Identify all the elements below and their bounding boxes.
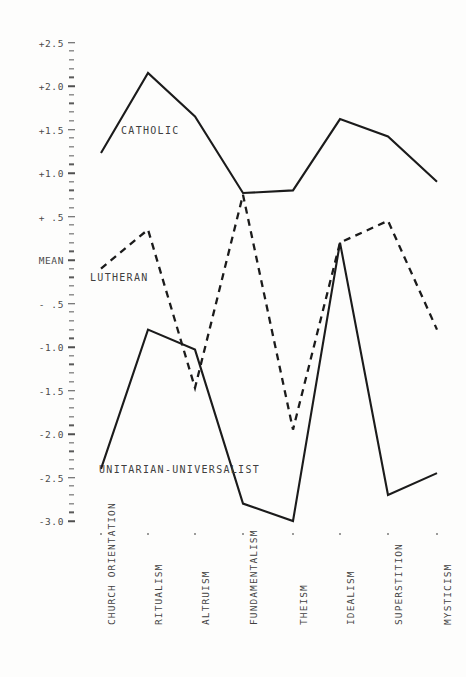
y-minor-tick xyxy=(69,407,74,408)
y-tick-mark xyxy=(68,129,75,131)
series-label-lutheran: LUTHERAN xyxy=(90,272,149,283)
y-minor-tick xyxy=(69,338,74,339)
y-minor-tick xyxy=(69,503,74,504)
y-minor-tick xyxy=(69,442,74,443)
y-minor-tick xyxy=(69,242,74,243)
y-minor-tick xyxy=(69,494,74,495)
y-tick-label: +2.0 xyxy=(8,81,64,92)
y-tick-mark xyxy=(68,433,75,435)
y-minor-tick xyxy=(69,312,74,313)
series-line-lutheran xyxy=(101,195,437,430)
y-tick-mark xyxy=(68,172,75,174)
x-tick-dot xyxy=(387,533,389,535)
y-minor-tick xyxy=(69,77,74,78)
y-minor-tick xyxy=(69,155,74,156)
y-minor-tick xyxy=(69,207,74,208)
chart-canvas: +2.5+2.0+1.5+1.0+ .5MEAN- .5-1.0-1.5-2.0… xyxy=(0,0,466,677)
y-minor-tick xyxy=(69,190,74,191)
y-tick-label: -2.0 xyxy=(8,429,64,440)
y-minor-tick xyxy=(69,138,74,139)
y-tick-mark xyxy=(68,42,75,44)
y-minor-tick xyxy=(69,372,74,373)
x-tick-dot xyxy=(194,533,196,535)
y-tick-label: - .5 xyxy=(8,298,64,309)
y-tick-label: -2.5 xyxy=(8,472,64,483)
y-minor-tick xyxy=(69,225,74,226)
y-tick-label: +2.5 xyxy=(8,37,64,48)
x-category-label-church-orientation: CHURCH ORIENTATION xyxy=(106,502,117,625)
y-minor-tick xyxy=(69,459,74,460)
y-minor-tick xyxy=(69,294,74,295)
y-minor-tick xyxy=(69,51,74,52)
y-minor-tick xyxy=(69,59,74,60)
y-minor-tick xyxy=(69,146,74,147)
y-minor-tick xyxy=(69,268,74,269)
x-tick-dot xyxy=(292,533,294,535)
y-minor-tick xyxy=(69,94,74,95)
x-tick-dot xyxy=(100,533,102,535)
y-tick-mark xyxy=(68,520,75,522)
y-minor-tick xyxy=(69,120,74,121)
x-category-label-theism: THEISM xyxy=(298,584,309,625)
y-minor-tick xyxy=(69,425,74,426)
y-minor-tick xyxy=(69,381,74,382)
y-minor-tick xyxy=(69,285,74,286)
y-tick-label: +1.0 xyxy=(8,168,64,179)
y-tick-label: -1.5 xyxy=(8,385,64,396)
y-minor-tick xyxy=(69,512,74,513)
y-tick-mark xyxy=(68,259,75,261)
y-minor-tick xyxy=(69,364,74,365)
y-minor-tick xyxy=(69,277,74,278)
y-minor-tick xyxy=(69,468,74,469)
y-tick-label: -1.0 xyxy=(8,342,64,353)
x-category-label-altruism: ALTRUISM xyxy=(200,570,211,625)
x-tick-dot xyxy=(147,533,149,535)
x-category-label-superstition: SUPERSTITION xyxy=(393,543,404,625)
x-tick-dot xyxy=(339,533,341,535)
x-category-label-fundamentalism: FUNDAMENTALISM xyxy=(248,530,259,625)
y-tick-mark xyxy=(68,346,75,348)
y-minor-tick xyxy=(69,320,74,321)
y-tick-mark xyxy=(68,477,75,479)
y-tick-mark xyxy=(68,390,75,392)
y-minor-tick xyxy=(69,181,74,182)
y-minor-tick xyxy=(69,416,74,417)
y-tick-label: -3.0 xyxy=(8,516,64,527)
x-tick-dot xyxy=(436,533,438,535)
y-minor-tick xyxy=(69,355,74,356)
y-minor-tick xyxy=(69,486,74,487)
y-minor-tick xyxy=(69,198,74,199)
y-minor-tick xyxy=(69,251,74,252)
series-label-unitarian-universalist: UNITARIAN-UNIVERSALIST xyxy=(99,464,260,475)
series-label-catholic: CATHOLIC xyxy=(121,125,180,136)
series-line-unitarian-universalist xyxy=(101,243,437,521)
y-minor-tick xyxy=(69,164,74,165)
x-category-label-idealism: IDEALISM xyxy=(345,570,356,625)
y-tick-mark xyxy=(68,85,75,87)
y-minor-tick xyxy=(69,329,74,330)
y-tick-label: MEAN xyxy=(8,255,64,266)
y-minor-tick xyxy=(69,399,74,400)
y-tick-label: + .5 xyxy=(8,211,64,222)
x-category-label-mysticism: MYSTICISM xyxy=(442,564,453,625)
y-tick-mark xyxy=(68,216,75,218)
x-tick-dot xyxy=(242,533,244,535)
y-minor-tick xyxy=(69,111,74,112)
y-minor-tick xyxy=(69,451,74,452)
y-tick-label: +1.5 xyxy=(8,124,64,135)
y-minor-tick xyxy=(69,103,74,104)
y-minor-tick xyxy=(69,233,74,234)
y-tick-mark xyxy=(68,303,75,305)
x-category-label-ritualism: RITUALISM xyxy=(153,564,164,625)
y-minor-tick xyxy=(69,68,74,69)
